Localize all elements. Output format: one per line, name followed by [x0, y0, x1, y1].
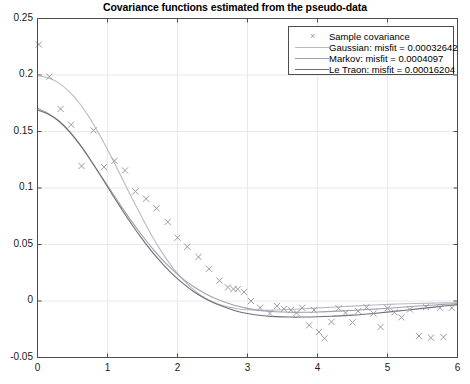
- x-tick-label: 2: [158, 362, 198, 373]
- y-tick-label: 0: [0, 294, 33, 305]
- legend-item-label: Markov: misfit = 0.0004097: [329, 53, 443, 64]
- y-tick-label: -0.05: [0, 351, 33, 362]
- x-marker-icon: ×: [310, 32, 315, 41]
- series-layer: [36, 41, 458, 341]
- y-tick-label: 0.25: [0, 12, 33, 23]
- legend-item[interactable]: Le Traon: misfit = 0.00016204: [289, 64, 455, 75]
- x-tick-label: 5: [368, 362, 408, 373]
- legend-line-icon: [295, 47, 329, 48]
- legend-line-swatch: [293, 42, 329, 53]
- y-tick-label: 0.2: [0, 68, 33, 79]
- x-tick-label: 6: [438, 362, 470, 373]
- legend-line-icon: [295, 69, 329, 70]
- legend-item[interactable]: ×Sample covariance: [289, 31, 455, 42]
- figure-canvas: Covariance functions estimated from the …: [0, 0, 470, 384]
- legend-line-swatch: [293, 64, 329, 75]
- x-tick-label: 3: [228, 362, 268, 373]
- x-tick-label: 4: [298, 362, 338, 373]
- y-tick-label: 0.1: [0, 181, 33, 192]
- legend-item-label: Gaussian: misfit = 0.00032642: [329, 42, 458, 53]
- legend-item[interactable]: Markov: misfit = 0.0004097: [289, 53, 455, 64]
- series-scatter-sample-covariance: [36, 41, 455, 341]
- legend-line-icon: [295, 58, 329, 59]
- legend-item[interactable]: Gaussian: misfit = 0.00032642: [289, 42, 455, 53]
- y-tick-label: 0.05: [0, 238, 33, 249]
- legend-item-label: Le Traon: misfit = 0.00016204: [329, 64, 455, 75]
- y-tick-label: 0.15: [0, 125, 33, 136]
- legend[interactable]: ×Sample covarianceGaussian: misfit = 0.0…: [288, 26, 454, 75]
- legend-marker-x-icon: ×: [293, 31, 329, 42]
- x-tick-label: 0: [18, 362, 58, 373]
- legend-item-label: Sample covariance: [329, 31, 410, 42]
- x-tick-label: 1: [88, 362, 128, 373]
- legend-line-swatch: [293, 53, 329, 64]
